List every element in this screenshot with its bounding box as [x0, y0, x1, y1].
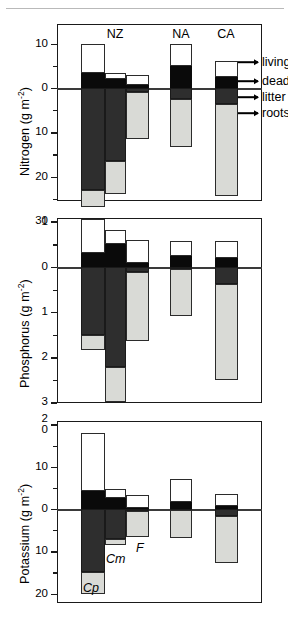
y-tick-label-potassium-1: 10: [35, 461, 48, 473]
y-minor-tick-phosphorus-3: [53, 380, 57, 381]
bar-segment-roots: [215, 516, 238, 563]
y-tick-label-nitrogen-3: 20: [35, 171, 48, 183]
y-tick-label-potassium-3: 10: [35, 546, 48, 558]
legend-arrow-living: [238, 61, 258, 63]
bar-segment-living: [215, 494, 238, 506]
axis-title-nitrogen-text: Nitrogen: [18, 128, 32, 176]
bar-segment-living: [105, 73, 126, 80]
bar-segment-dead: [170, 66, 192, 88]
top-rule-divider: [6, 8, 284, 9]
bar-segment-litter: [170, 88, 192, 99]
bar-potassium-nz-f: [126, 421, 149, 603]
axis-title-nitrogen: Nitrogen (g m-2): [16, 87, 32, 176]
bar-segment-litter: [105, 88, 126, 161]
bar-segment-litter: [105, 267, 126, 367]
y-tick-nitrogen-1: [51, 88, 57, 89]
y-minor-tick-phosphorus-0: [53, 244, 57, 245]
bar-segment-litter: [215, 88, 238, 104]
y-tick-nitrogen-0: [51, 44, 57, 45]
y-tick-label-potassium-0: 20: [42, 413, 48, 435]
panel-phosphorus: 10123: [57, 218, 262, 403]
bar-segment-roots: [105, 367, 126, 402]
legend-label-living: living: [262, 55, 288, 69]
bar-segment-dead: [215, 258, 238, 267]
legend-arrow-litter: [238, 96, 258, 98]
y-tick-phosphorus-0: [51, 222, 57, 223]
bar-potassium-nz-cp: [81, 421, 105, 603]
y-minor-tick-nitrogen-0: [53, 66, 57, 67]
legend-label-litter: litter: [262, 90, 286, 104]
bar-segment-roots: [170, 510, 192, 538]
y-tick-phosphorus-3: [51, 357, 57, 358]
legend-arrow-dead: [238, 80, 258, 82]
bar-segment-roots: [126, 92, 149, 138]
bar-segment-living: [215, 61, 238, 77]
bar-phosphorus-nz-cm: [105, 218, 126, 403]
bar-segment-roots: [105, 161, 126, 194]
bar-segment-litter: [81, 88, 105, 190]
bar-phosphorus-ca: [215, 218, 238, 403]
bar-phosphorus-nz-cp: [81, 218, 105, 403]
bar-nitrogen-nz-f: [126, 24, 149, 201]
y-tick-label-nitrogen-2: 10: [35, 127, 48, 139]
bar-segment-living: [81, 219, 105, 253]
species-label-cp: Cp: [83, 581, 99, 595]
bar-segment-roots: [170, 99, 192, 147]
y-minor-tick-phosphorus-2: [53, 335, 57, 336]
bar-segment-roots: [105, 539, 126, 545]
y-tick-label-phosphorus-3: 2: [42, 351, 48, 363]
bar-segment-living: [170, 44, 192, 66]
figure-root: 100102030 NZNACA Nitrogen (g m-2) living…: [0, 0, 288, 624]
panel-potassium: 201001020 CpCmF: [57, 421, 262, 603]
y-minor-tick-potassium-3: [53, 572, 57, 573]
y-tick-label-nitrogen-1: 0: [42, 82, 48, 94]
bar-segment-living: [126, 240, 149, 263]
bar-segment-dead: [81, 253, 105, 267]
legend-arrow-roots: [238, 112, 258, 114]
y-tick-potassium-3: [51, 551, 57, 552]
bar-segment-dead: [81, 73, 105, 88]
bar-segment-dead: [215, 77, 238, 88]
y-minor-tick-nitrogen-3: [53, 199, 57, 200]
y-tick-phosphorus-4: [51, 402, 57, 403]
bar-segment-litter: [215, 509, 238, 516]
bar-segment-living: [170, 479, 192, 501]
bar-segment-living: [126, 495, 149, 508]
bar-segment-dead: [105, 244, 126, 267]
bar-segment-litter: [81, 509, 105, 572]
bar-phosphorus-nz-f: [126, 218, 149, 403]
y-minor-tick-potassium-1: [53, 488, 57, 489]
bar-segment-dead: [170, 256, 192, 267]
bar-segment-dead: [170, 502, 192, 509]
bar-segment-roots: [81, 190, 105, 208]
bar-segment-roots: [126, 272, 149, 342]
y-tick-label-potassium-4: 20: [35, 588, 48, 600]
legend-label-roots: roots: [262, 106, 288, 120]
y-tick-nitrogen-2: [51, 132, 57, 133]
bar-potassium-nz-cm: [105, 421, 126, 603]
group-label-ca: CA: [217, 27, 234, 41]
y-tick-label-phosphorus-4: 3: [42, 397, 48, 409]
group-label-na: NA: [172, 27, 189, 41]
y-tick-label-phosphorus-0: 1: [42, 216, 48, 228]
species-label-f: F: [136, 541, 144, 555]
bar-segment-roots: [215, 104, 238, 196]
legend-label-dead: dead: [262, 74, 288, 88]
bar-segment-dead: [105, 79, 126, 88]
bar-phosphorus-na: [170, 218, 192, 403]
y-tick-nitrogen-3: [51, 177, 57, 178]
bar-segment-litter: [215, 267, 238, 284]
bar-segment-roots: [170, 269, 192, 315]
bar-segment-roots: [215, 284, 238, 380]
bar-segment-living: [126, 75, 149, 85]
axis-title-phosphorus-text: Phosphorus: [18, 320, 32, 388]
y-tick-label-phosphorus-2: 1: [42, 306, 48, 318]
y-tick-phosphorus-1: [51, 267, 57, 268]
bar-nitrogen-nz-cp: [81, 24, 105, 201]
y-tick-potassium-4: [51, 594, 57, 595]
y-tick-label-phosphorus-1: 0: [42, 261, 48, 273]
axis-title-phosphorus-units: (g m-2): [18, 279, 32, 316]
axis-title-phosphorus: Phosphorus (g m-2): [16, 279, 32, 388]
y-tick-potassium-0: [51, 424, 57, 425]
axis-title-nitrogen-units: (g m-2): [18, 87, 32, 124]
